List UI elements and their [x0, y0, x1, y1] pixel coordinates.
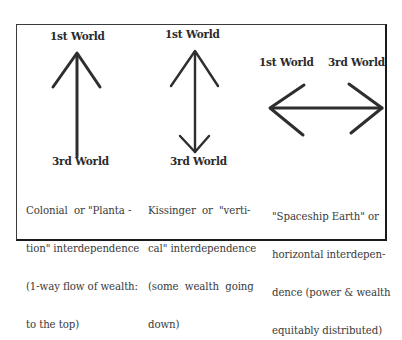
caption-line: down): [148, 319, 256, 332]
caption-line: "Spaceship Earth" or: [272, 211, 391, 224]
caption-line: to the top): [26, 319, 139, 332]
double-vertical-arrow-icon: [171, 51, 218, 152]
caption-line: Colonial or "Planta -: [26, 205, 139, 218]
double-horizontal-arrow-icon: [270, 84, 382, 135]
panel1-caption: Colonial or "Planta - tion" interdepende…: [26, 180, 139, 340]
caption-line: tion" interdependence: [26, 243, 139, 256]
caption-line: horizontal interdepen-: [272, 249, 391, 262]
up-arrow-icon: [53, 53, 100, 156]
caption-line: (1-way flow of wealth:: [26, 281, 139, 294]
caption-line: cal" interdependence: [148, 243, 256, 256]
caption-line: equitably distributed): [272, 325, 391, 338]
panel3-caption: "Spaceship Earth" or horizontal interdep…: [272, 186, 391, 340]
panel2-caption: Kissinger or "verti- cal" interdependenc…: [148, 180, 256, 340]
caption-line: Kissinger or "verti-: [148, 205, 256, 218]
caption-line: dence (power & wealth: [272, 287, 391, 300]
caption-line: (some wealth going: [148, 281, 256, 294]
